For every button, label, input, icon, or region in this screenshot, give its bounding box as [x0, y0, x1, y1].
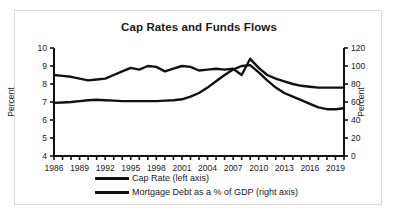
svg-text:6: 6 [42, 115, 47, 125]
legend-swatch-cap-rate [95, 177, 129, 180]
svg-text:40: 40 [351, 115, 361, 125]
svg-text:10: 10 [38, 43, 48, 53]
legend-item-mortgage-debt: Mortgage Debt as a % of GDP (right axis) [15, 185, 383, 199]
svg-text:0: 0 [351, 151, 356, 161]
svg-text:100: 100 [351, 61, 365, 71]
svg-text:9: 9 [42, 61, 47, 71]
legend-label-cap-rate: Cap Rate (left axis) [132, 173, 209, 183]
svg-text:80: 80 [351, 79, 361, 89]
svg-text:4: 4 [42, 151, 47, 161]
svg-text:8: 8 [42, 79, 47, 89]
svg-text:7: 7 [42, 97, 47, 107]
legend-item-cap-rate: Cap Rate (left axis) [15, 171, 383, 185]
plot-area: 4567891002040608010012019861989199219951… [15, 11, 383, 181]
chart-legend: Cap Rate (left axis) Mortgage Debt as a … [15, 171, 383, 199]
svg-text:60: 60 [351, 97, 361, 107]
svg-text:120: 120 [351, 43, 365, 53]
svg-text:5: 5 [42, 133, 47, 143]
legend-swatch-mortgage-debt [95, 191, 129, 194]
legend-label-mortgage-debt: Mortgage Debt as a % of GDP (right axis) [132, 187, 298, 197]
chart-figure: Cap Rates and Funds Flows Percent Percen… [14, 10, 382, 205]
svg-text:20: 20 [351, 133, 361, 143]
